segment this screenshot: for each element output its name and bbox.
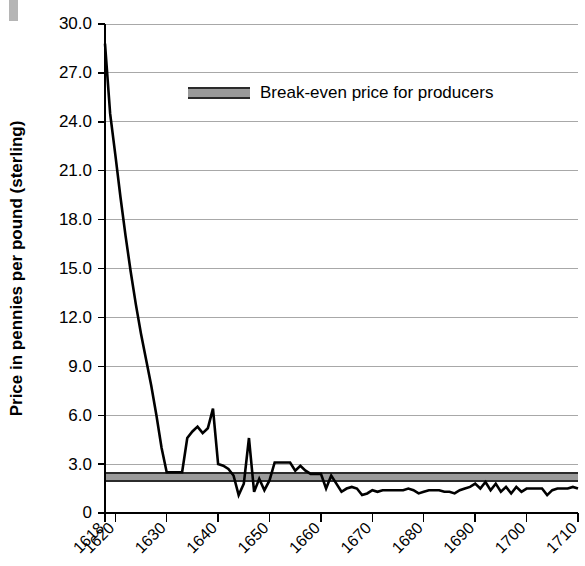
x-tick-label-1680: 1680 xyxy=(389,519,426,556)
x-tick-label-1650: 1650 xyxy=(234,519,271,556)
x-tick-label-1660: 1660 xyxy=(286,519,323,556)
corner-artifact-mark xyxy=(9,0,18,21)
series-line-tobacco-price xyxy=(105,44,578,496)
x-tick-labels-group: 1618162016301640165016601670168016901700… xyxy=(70,519,580,556)
y-tick-label-24.0: 24.0 xyxy=(59,112,92,131)
y-tick-label-9.0: 9.0 xyxy=(68,357,92,376)
x-tick-label-1640: 1640 xyxy=(183,519,220,556)
y-tick-label-6.0: 6.0 xyxy=(68,406,92,425)
x-tick-label-1690: 1690 xyxy=(440,519,477,556)
x-tick-label-1670: 1670 xyxy=(337,519,374,556)
y-tick-label-21.0: 21.0 xyxy=(59,161,92,180)
y-tick-label-3.0: 3.0 xyxy=(68,455,92,474)
break-even-band-group xyxy=(105,473,578,481)
x-tick-label-1630: 1630 xyxy=(132,519,169,556)
price-line-chart: 03.06.09.012.015.018.021.024.027.030.0 1… xyxy=(0,0,585,566)
y-tick-label-18.0: 18.0 xyxy=(59,210,92,229)
y-tick-label-27.0: 27.0 xyxy=(59,63,92,82)
legend-label-break-even: Break-even price for producers xyxy=(260,83,493,102)
series-group xyxy=(105,44,578,496)
y-tick-labels-group: 03.06.09.012.015.018.021.024.027.030.0 xyxy=(59,14,92,522)
y-axis-title-group: Price in pennies per pound (sterling) xyxy=(7,121,26,417)
x-tick-label-1700: 1700 xyxy=(492,519,529,556)
x-tick-label-1620: 1620 xyxy=(80,519,117,556)
legend-group: Break-even price for producers xyxy=(188,83,493,102)
x-tick-label-1710: 1710 xyxy=(543,519,580,556)
break-even-band xyxy=(105,473,578,481)
y-tick-label-0: 0 xyxy=(83,503,92,522)
chart-figure: 03.06.09.012.015.018.021.024.027.030.0 1… xyxy=(0,0,585,566)
y-axis-title: Price in pennies per pound (sterling) xyxy=(7,121,26,417)
y-tick-label-12.0: 12.0 xyxy=(59,308,92,327)
legend-swatch-break-even xyxy=(188,88,250,98)
y-tick-label-15.0: 15.0 xyxy=(59,259,92,278)
y-tick-label-30.0: 30.0 xyxy=(59,14,92,33)
